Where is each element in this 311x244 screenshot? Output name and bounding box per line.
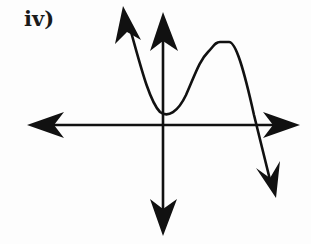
graph-figure: iv) bbox=[0, 0, 311, 244]
curve-left-arrow-icon bbox=[115, 6, 141, 44]
function-curve bbox=[127, 18, 272, 188]
graph-canvas bbox=[0, 0, 311, 244]
